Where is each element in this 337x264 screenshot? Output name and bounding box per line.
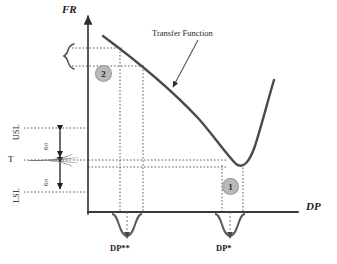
target-label: T [8,154,14,164]
dp-tick-stems [127,212,230,240]
y-axis-label: FR [62,3,77,15]
fr-distribution-spike [28,153,80,167]
transfer-function-arrow [173,40,198,87]
marker-two: 2 [95,65,112,82]
sigma-lower-label: 6σ [42,179,50,186]
dp-star-label: DP* [216,243,232,253]
lsl-label: LSL [12,188,21,203]
diagram-svg [0,0,337,264]
axis-lines [88,16,298,214]
projection-guides [24,48,243,212]
transfer-function-label: Transfer Function [152,28,213,38]
figure-canvas: FR DP Transfer Function USL T LSL 6σ 6σ … [0,0,337,264]
sigma-upper-label: 6σ [42,143,50,150]
dp-double-star-label: DP** [110,243,130,253]
x-axis-label: DP [306,200,321,212]
marker-one: 1 [222,178,239,195]
transfer-function-curve [103,36,274,166]
usl-label: USL [12,124,21,140]
dp-arrowheads [124,232,233,239]
dp-distributions [112,214,245,236]
